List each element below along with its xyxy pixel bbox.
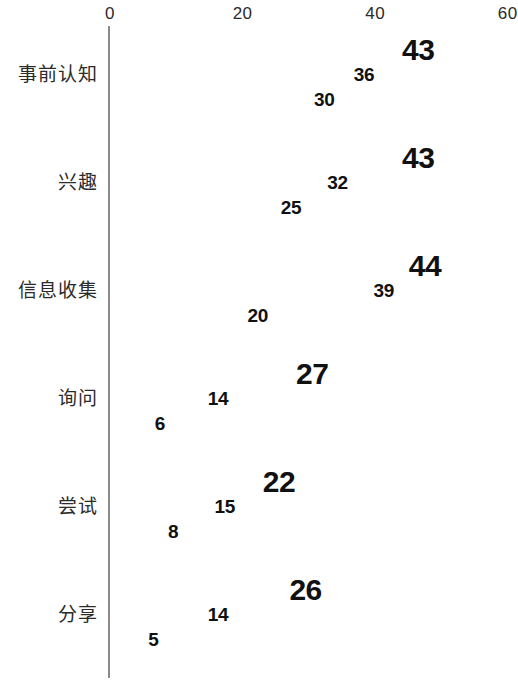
category-label: 信息收集 <box>0 280 98 301</box>
category-label: 询问 <box>0 388 98 409</box>
bar-row: 22 <box>110 470 256 493</box>
bar-value-label: 25 <box>281 197 302 219</box>
bar-row: 44 <box>110 254 402 277</box>
bar-value-label: 14 <box>208 388 229 410</box>
plot-area: 事前认知433630兴趣433225信息收集443920询问27146尝试221… <box>0 32 509 681</box>
bar-row: 8 <box>110 520 163 543</box>
category-label: 事前认知 <box>0 64 98 85</box>
bar-row: 43 <box>110 146 395 169</box>
category-label: 兴趣 <box>0 172 98 193</box>
bar-value-label: 26 <box>289 573 321 607</box>
bar-group: 询问27146 <box>0 362 509 470</box>
bar-value-label: 5 <box>148 629 158 651</box>
bar-row: 43 <box>110 38 395 61</box>
bar-row: 20 <box>110 304 243 327</box>
bar-row: 5 <box>110 628 143 651</box>
x-axis: 0 20 40 60 <box>0 0 509 32</box>
bar-value-label: 6 <box>155 413 165 435</box>
bar-value-label: 14 <box>208 604 229 626</box>
x-axis-tick-label-20: 20 <box>233 4 253 24</box>
bar-value-label: 22 <box>263 465 295 499</box>
bar-row: 25 <box>110 196 276 219</box>
x-axis-tick-label-40: 40 <box>365 4 385 24</box>
bar-group: 事前认知433630 <box>0 38 509 146</box>
bar-value-label: 44 <box>409 249 441 283</box>
x-axis-tick-label-60: 60 <box>498 4 518 24</box>
bar-row: 15 <box>110 495 209 518</box>
bar-value-label: 8 <box>168 521 178 543</box>
bar-value-label: 43 <box>402 33 434 67</box>
category-label: 分享 <box>0 604 98 625</box>
bar-value-label: 20 <box>248 305 269 327</box>
bar-group: 分享26145 <box>0 578 509 681</box>
bar-row: 36 <box>110 63 349 86</box>
bar-row: 14 <box>110 387 203 410</box>
bar-value-label: 30 <box>314 89 335 111</box>
bar-row: 27 <box>110 362 289 385</box>
bar-value-label: 27 <box>296 357 328 391</box>
bar-row: 39 <box>110 279 369 302</box>
x-axis-tick-label-0: 0 <box>105 4 115 24</box>
category-label: 尝试 <box>0 496 98 517</box>
bar-group: 信息收集443920 <box>0 254 509 362</box>
bar-row: 30 <box>110 88 309 111</box>
bar-row: 6 <box>110 412 150 435</box>
bar-group: 兴趣433225 <box>0 146 509 254</box>
bar-value-label: 43 <box>402 141 434 175</box>
bar-group: 尝试22158 <box>0 470 509 578</box>
bar-value-label: 15 <box>214 496 235 518</box>
bar-value-label: 32 <box>327 172 348 194</box>
bar-row: 26 <box>110 578 282 601</box>
bar-value-label: 36 <box>354 64 375 86</box>
bar-row: 32 <box>110 171 322 194</box>
bar-row: 14 <box>110 603 203 626</box>
bar-value-label: 39 <box>374 280 395 302</box>
